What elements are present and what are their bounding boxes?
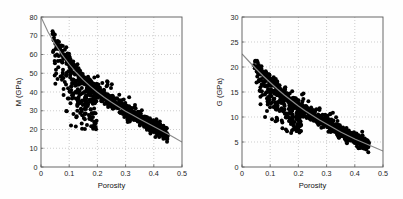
data-point-outlier [110,82,114,86]
scatter-plot-right: 00.10.20.30.40.5051015202530PorosityG (G… [201,0,403,199]
data-point [61,44,65,48]
data-point-outlier [274,107,278,111]
data-point-outlier [53,61,57,65]
y-tick-label: 50 [30,69,38,78]
y-tick-label: 30 [231,13,239,22]
data-point-outlier [65,109,69,113]
data-point [110,96,114,100]
data-point-outlier [60,78,64,82]
x-tick-label: 0.4 [149,169,159,178]
data-point-outlier [277,100,281,104]
data-point-outlier [298,119,302,123]
data-point-outlier [317,108,321,112]
data-point-outlier [263,84,267,88]
y-tick-label: 15 [231,88,239,97]
data-point [345,129,349,133]
data-point-outlier [288,111,292,115]
x-tick-label: 0.2 [293,169,303,178]
data-point-outlier [105,84,109,88]
data-point-outlier [109,86,113,90]
data-point-outlier [68,101,72,105]
data-point-outlier [69,84,73,88]
data-point [311,117,315,121]
x-axis-title: Porosity [299,181,327,190]
data-point-outlier [74,83,78,87]
data-point [110,104,114,108]
data-point-outlier [255,74,259,78]
data-point-outlier [84,96,88,100]
data-point [122,104,126,108]
data-point-outlier [77,80,81,84]
data-point-outlier [54,68,58,72]
x-tick-label: 0.1 [265,169,275,178]
data-point [360,130,364,134]
data-point-outlier [284,115,288,119]
data-point-outlier [67,96,71,100]
data-point [337,123,341,127]
data-point-outlier [102,89,106,93]
y-tick-label: 20 [231,63,239,72]
data-point-outlier [274,119,278,123]
data-point-outlier [86,102,90,106]
data-point [305,116,309,120]
data-point-outlier [266,96,270,100]
data-point-outlier [94,121,98,125]
data-point-outlier [87,113,91,117]
y-tick-label: 5 [235,138,239,147]
data-point [336,119,340,123]
data-point-outlier [304,105,308,109]
data-point-outlier [100,81,104,85]
data-point [133,111,137,115]
data-point [163,126,167,130]
x-tick-label: 0.4 [350,169,360,178]
data-point [95,82,99,86]
data-point-outlier [301,97,305,101]
x-tick-label: 0 [240,169,244,178]
data-point-outlier [300,92,304,96]
x-tick-label: 0.3 [322,169,332,178]
y-tick-label: 20 [30,125,38,134]
data-point-outlier [272,97,276,101]
data-point-outlier [263,115,267,119]
x-axis-title: Porosity [98,181,126,190]
data-point-outlier [259,102,263,106]
data-point-outlier [281,100,285,104]
data-point [77,66,81,70]
data-point-outlier [57,54,61,58]
y-tick-label: 10 [231,113,239,122]
data-point-outlier [62,93,66,97]
data-point-outlier [92,106,96,110]
chart-panel-right: 00.10.20.30.40.5051015202530PorosityG (G… [201,0,403,199]
x-tick-label: 0.3 [121,169,131,178]
data-point-outlier [84,107,88,111]
data-point-outlier [306,99,310,103]
data-point-outlier [127,95,131,99]
data-point [105,94,109,98]
data-point-outlier [127,105,131,109]
data-point-outlier [260,93,264,97]
data-point-outlier [89,124,93,128]
data-point-outlier [53,74,57,78]
y-tick-label: 30 [30,106,38,115]
data-point-outlier [80,121,84,125]
data-point-outlier [296,112,300,116]
data-point-outlier [266,102,270,106]
data-point-outlier [69,123,73,127]
data-point-outlier [280,121,284,125]
data-point [286,100,290,104]
data-point [124,114,128,118]
data-point [164,136,168,140]
data-point [355,131,359,135]
data-point-outlier [285,129,289,133]
data-point [290,89,294,93]
data-point [145,117,149,121]
data-point [106,102,110,106]
x-tick-label: 0.1 [64,169,74,178]
data-point-outlier [261,79,265,83]
data-point [253,59,257,63]
data-point-outlier [278,95,282,99]
data-point-outlier [89,107,93,111]
data-point-outlier [93,101,97,105]
data-point-outlier [75,109,79,113]
data-point-outlier [75,114,79,118]
